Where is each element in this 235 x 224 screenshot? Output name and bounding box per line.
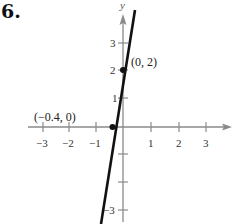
- x-tick-label: 1: [148, 137, 154, 149]
- y-axis-label: y: [119, 0, 125, 11]
- y-tick-label: 2: [110, 64, 116, 76]
- y-tick-label: 3: [110, 37, 116, 49]
- y-tick-label: 1: [112, 92, 118, 104]
- x-tick-label: 2: [176, 137, 182, 149]
- y-intercept-label: (0, 2): [131, 55, 157, 69]
- x-intercept-label: (−0.4, 0): [34, 110, 76, 124]
- x-tick-label: −1: [89, 137, 101, 149]
- graph: y −3 −2 −1 1 2 3 3 2 1 −3 (−0.4, 0) (0, …: [0, 0, 235, 224]
- x-tick-label: −2: [62, 137, 74, 149]
- graph-line: [101, 10, 135, 224]
- x-intercept-point: [110, 124, 116, 130]
- y-axis: [118, 14, 128, 222]
- x-tick-label: 3: [203, 137, 209, 149]
- x-tick-label: −3: [36, 137, 48, 149]
- y-intercept-point: [120, 67, 126, 73]
